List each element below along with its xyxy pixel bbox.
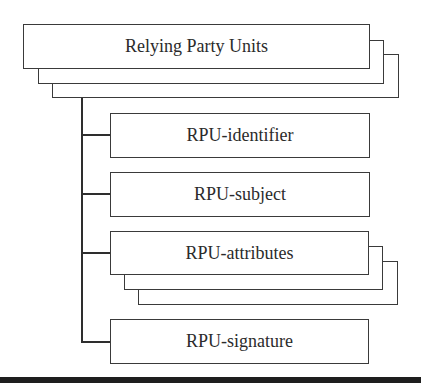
- node-rpu-signature: RPU-signature: [110, 319, 369, 364]
- root-node-relying-party-units: Relying Party Units: [23, 24, 370, 69]
- node-rpu-identifier: RPU-identifier: [110, 113, 370, 158]
- node-rpu-signature-label: RPU-signature: [111, 320, 368, 363]
- node-rpu-attributes-label: RPU-attributes: [111, 232, 368, 274]
- bottom-rule: [0, 377, 421, 383]
- connector-subject: [81, 193, 110, 195]
- node-rpu-identifier-label: RPU-identifier: [111, 114, 369, 157]
- node-rpu-subject: RPU-subject: [110, 172, 370, 217]
- connector-attributes: [81, 252, 110, 254]
- connector-identifier: [81, 134, 110, 136]
- node-rpu-subject-label: RPU-subject: [111, 173, 369, 216]
- connector-signature: [81, 341, 110, 343]
- root-node-label: Relying Party Units: [24, 25, 369, 68]
- node-rpu-attributes: RPU-attributes: [110, 231, 369, 275]
